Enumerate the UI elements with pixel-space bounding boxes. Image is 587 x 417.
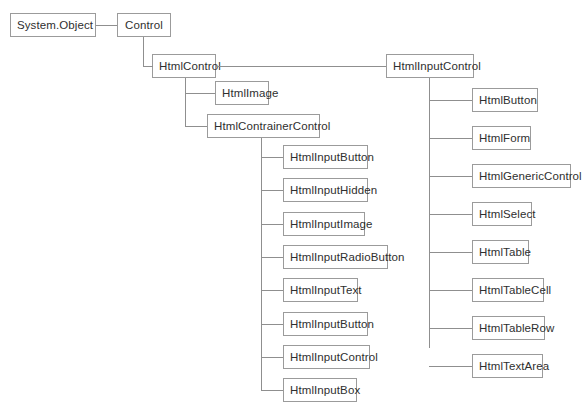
right-child-connector-3: [429, 214, 472, 215]
right-child-node-2[interactable]: HtmlGenericControl: [472, 164, 571, 188]
edge-left-branch-trunk: [261, 138, 262, 390]
left-child-connector-6: [261, 357, 283, 358]
left-child-node-3[interactable]: HtmlInputRadioButton: [283, 245, 388, 269]
node-html-contrainer-control[interactable]: HtmlContrainerControl: [207, 114, 320, 138]
edge-right-branch-trunk: [429, 78, 430, 348]
left-child-node-4[interactable]: HtmlInputText: [283, 278, 358, 302]
left-child-node-0[interactable]: HtmlInputButton: [283, 145, 368, 169]
left-child-connector-0: [261, 157, 283, 158]
node-system-object[interactable]: System.Object: [10, 13, 96, 37]
right-child-connector-0: [429, 100, 472, 101]
right-child-node-4[interactable]: HtmlTable: [472, 240, 529, 264]
edge-html-control-to-contrainer-control: [185, 126, 207, 127]
edge-system-object-to-control: [96, 25, 117, 26]
left-child-node-5[interactable]: HtmlInputButton: [283, 312, 368, 336]
right-child-node-0[interactable]: HtmlButton: [472, 88, 538, 112]
left-child-connector-5: [261, 324, 283, 325]
right-child-connector-5: [429, 290, 472, 291]
left-child-node-1[interactable]: HtmlInputHidden: [283, 178, 368, 202]
right-child-connector-4: [429, 252, 472, 253]
right-child-connector-6: [429, 328, 472, 329]
edge-html-control-to-html-image: [185, 93, 215, 94]
right-child-node-6[interactable]: HtmlTableRow: [472, 316, 545, 340]
node-control[interactable]: Control: [117, 13, 171, 37]
node-html-control[interactable]: HtmlControl: [152, 54, 216, 78]
left-child-connector-2: [261, 224, 283, 225]
right-child-node-1[interactable]: HtmlForm: [472, 126, 531, 150]
right-child-node-3[interactable]: HtmlSelect: [472, 202, 532, 226]
left-child-connector-4: [261, 290, 283, 291]
right-child-connector-2: [429, 176, 472, 177]
right-child-connector-1: [429, 138, 472, 139]
left-child-connector-3: [261, 257, 283, 258]
node-html-input-control-root[interactable]: HtmlInputControl: [386, 54, 474, 78]
edge-html-control-trunk: [185, 78, 186, 126]
node-html-image[interactable]: HtmlImage: [215, 81, 269, 105]
edge-control-trunk: [143, 37, 144, 66]
left-child-connector-7: [261, 390, 283, 391]
edge-html-control-to-html-input-control: [216, 66, 386, 67]
edge-control-to-html-control: [143, 66, 153, 67]
left-child-node-7[interactable]: HtmlInputBox: [283, 378, 357, 402]
right-child-node-7[interactable]: HtmlTextArea: [472, 354, 543, 378]
left-child-node-6[interactable]: HtmlInputControl: [283, 345, 370, 369]
right-child-node-5[interactable]: HtmlTableCell: [472, 278, 544, 302]
left-child-connector-1: [261, 190, 283, 191]
right-child-connector-7: [429, 366, 472, 367]
class-hierarchy-diagram: System.Object Control HtmlControl HtmlIn…: [0, 0, 587, 417]
left-child-node-2[interactable]: HtmlInputImage: [283, 212, 365, 236]
